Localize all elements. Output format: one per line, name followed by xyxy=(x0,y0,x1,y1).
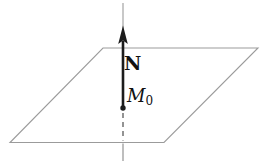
normal-vector-label: N xyxy=(124,54,141,73)
plane-normal-vector-diagram: N M0 xyxy=(0,0,268,167)
point-label-base: M xyxy=(127,85,145,106)
diagram-canvas xyxy=(0,0,268,167)
point-label-subscript: 0 xyxy=(145,94,153,108)
point-m0-dot xyxy=(120,105,125,110)
point-m0-label: M0 xyxy=(127,87,153,105)
